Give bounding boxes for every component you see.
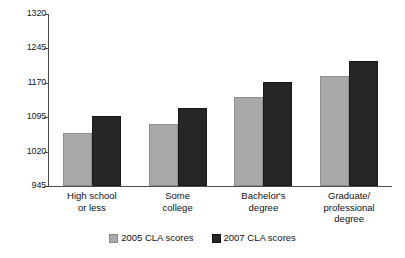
bar-group xyxy=(49,14,135,186)
bar-2007 xyxy=(178,108,207,186)
bar-group xyxy=(306,14,392,186)
bar-2005 xyxy=(149,124,178,186)
category-label-line: college xyxy=(135,202,221,214)
y-axis-tick-mark xyxy=(44,152,48,153)
y-axis-tick-mark xyxy=(44,117,48,118)
bar-group xyxy=(221,14,307,186)
bar-2005 xyxy=(63,133,92,186)
category-label-line: Some xyxy=(135,190,221,202)
y-axis-tick-label: 1095 xyxy=(2,112,46,121)
y-axis-tick-label: 1170 xyxy=(2,78,46,87)
category-label-line: professional xyxy=(306,202,392,214)
y-axis-tick-mark xyxy=(44,48,48,49)
category-label-line: degree xyxy=(306,213,392,225)
y-axis-tick: 1170 xyxy=(0,83,46,84)
category-label-line: Graduate/ xyxy=(306,190,392,202)
bar-2005 xyxy=(234,97,263,186)
category-label-line: degree xyxy=(221,202,307,214)
y-axis-tick: 1320 xyxy=(0,14,46,15)
x-axis-category-label: Bachelor'sdegree xyxy=(221,190,307,213)
x-axis-category-label: Somecollege xyxy=(135,190,221,213)
y-axis-tick-mark xyxy=(44,14,48,15)
bar-group xyxy=(135,14,221,186)
legend-swatch-2005 xyxy=(109,234,118,243)
y-axis-tick: 1245 xyxy=(0,48,46,49)
bar-2005 xyxy=(320,76,349,186)
x-axis-line xyxy=(48,186,392,187)
y-axis-tick-label: 1020 xyxy=(2,147,46,156)
x-axis-category-label: Graduate/professionaldegree xyxy=(306,190,392,225)
y-axis-tick-label: 1245 xyxy=(2,43,46,52)
category-label-line: Bachelor's xyxy=(221,190,307,202)
y-axis-tick: 1095 xyxy=(0,117,46,118)
plot-area xyxy=(49,14,392,186)
category-label-line: High school xyxy=(49,190,135,202)
x-axis-category-label: High schoolor less xyxy=(49,190,135,213)
y-axis-tick-label: 945 xyxy=(2,181,46,190)
legend-label: 2007 CLA scores xyxy=(224,233,296,243)
x-axis-category-labels: High schoolor lessSomecollegeBachelor'sd… xyxy=(49,190,392,236)
category-label-line: or less xyxy=(49,202,135,214)
legend-item: 2007 CLA scores xyxy=(212,233,296,243)
y-axis-tick: 945 xyxy=(0,186,46,187)
y-axis-tick-mark xyxy=(44,186,48,187)
legend-item: 2005 CLA scores xyxy=(109,233,193,243)
legend-swatch-2007 xyxy=(212,234,221,243)
bar-2007 xyxy=(349,61,378,186)
chart-legend: 2005 CLA scores2007 CLA scores xyxy=(0,233,405,243)
y-axis-tick: 1020 xyxy=(0,152,46,153)
bar-2007 xyxy=(263,82,292,186)
y-axis-tick-mark xyxy=(44,83,48,84)
y-axis-tick-label: 1320 xyxy=(2,9,46,18)
legend-label: 2005 CLA scores xyxy=(121,233,193,243)
bar-chart: 13201245117010951020945 High schoolor le… xyxy=(0,0,405,258)
bar-2007 xyxy=(92,116,121,186)
